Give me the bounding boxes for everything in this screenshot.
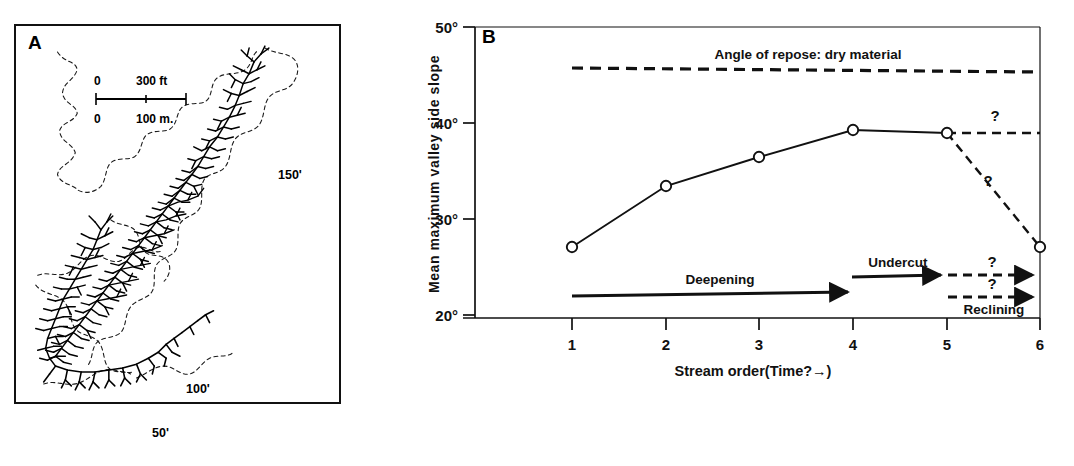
deepening-label: Deepening xyxy=(685,272,754,287)
stream-network-mid xyxy=(97,188,204,301)
data-point-2 xyxy=(661,181,671,191)
data-point-5 xyxy=(942,128,952,138)
slope-series-line xyxy=(572,130,947,247)
y-axis-label: Mean maximum valley side slope xyxy=(426,55,442,293)
data-point-4 xyxy=(848,125,858,135)
contour-label-100: 100' xyxy=(186,382,210,396)
undercut-question-mark: ? xyxy=(987,253,996,270)
x-tick-label-5: 5 xyxy=(943,336,951,353)
panel-a-map: A xyxy=(14,24,341,404)
x-tick-label-1: 1 xyxy=(568,336,576,353)
x-ticks xyxy=(572,318,1040,330)
deepening-arrow xyxy=(572,292,848,296)
figure-root: A xyxy=(0,0,1074,466)
data-point-1 xyxy=(567,242,577,252)
data-point-3 xyxy=(754,152,764,162)
undercut-label: Undercut xyxy=(868,255,928,270)
x-tick-label-3: 3 xyxy=(755,336,763,353)
question-mark-upper: ? xyxy=(990,107,999,124)
scale-bar-graphic xyxy=(88,90,198,110)
y-ticks xyxy=(463,27,475,315)
contour-label-150: 150' xyxy=(278,168,302,182)
undercut-arrow-solid xyxy=(852,275,941,277)
reclining-label: Reclining xyxy=(964,302,1025,317)
projection-decline-line xyxy=(947,133,1040,247)
scale-bar-bottom-row: 0 100 m. xyxy=(88,112,218,127)
panel-b-label: B xyxy=(482,26,496,48)
slope-vs-stream-order-chart: 50° 40° 30° 20° 1 2 3 4 5 6 Stream order… xyxy=(420,4,1070,404)
stream-network-lower xyxy=(44,311,214,390)
panel-b-chart: 50° 40° 30° 20° 1 2 3 4 5 6 Stream order… xyxy=(420,4,1070,404)
x-axis-label: Stream order(Time?→) xyxy=(675,363,832,379)
reclining-question-mark: ? xyxy=(987,275,996,292)
scale-bar-m-zero: 0 xyxy=(94,112,101,126)
question-mark-lower: ? xyxy=(983,172,992,189)
y-tick-label-20: 20° xyxy=(435,307,458,324)
angle-of-repose-label: Angle of repose: dry material xyxy=(715,47,902,62)
y-tick-label-50: 50° xyxy=(435,19,458,36)
x-tick-label-6: 6 xyxy=(1036,336,1044,353)
scale-bar-ft-zero: 0 xyxy=(94,74,101,88)
data-point-6 xyxy=(1035,242,1045,252)
contour-label-50: 50' xyxy=(152,426,169,440)
stream-network-left xyxy=(36,214,113,366)
x-tick-label-2: 2 xyxy=(662,336,670,353)
contour-sub-a xyxy=(111,220,170,281)
scale-bar-top-row: 0 300 ft xyxy=(88,74,218,89)
x-tick-label-4: 4 xyxy=(849,336,858,353)
scale-bar-m-max: 100 m. xyxy=(136,112,173,126)
angle-of-repose-line xyxy=(572,68,1040,72)
scale-bar: 0 300 ft 0 100 m. xyxy=(88,74,218,132)
scale-bar-ft-max: 300 ft xyxy=(136,74,167,88)
